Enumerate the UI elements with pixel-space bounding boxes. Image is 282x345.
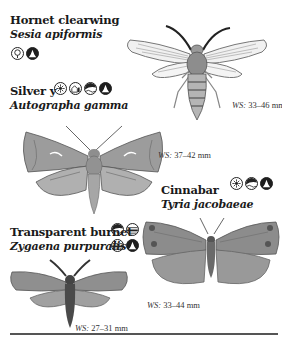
species-latin-name: Tyria jacobaeae xyxy=(161,198,253,211)
tree-habitat-icon xyxy=(11,47,24,60)
habitat-icons xyxy=(54,82,112,95)
habitat-icons xyxy=(111,239,139,252)
wingspan-label: WS: 33–44 mm xyxy=(147,300,200,310)
wetland-habitat-icon xyxy=(126,223,139,236)
species-common-name: Cinnabar xyxy=(161,184,219,197)
garden-habitat-icon xyxy=(69,82,82,95)
cinnabar-illustration xyxy=(140,212,282,298)
species-latin-name: Autographa gamma xyxy=(10,99,128,112)
seasonal-flight-icon xyxy=(99,82,112,95)
wingspan-label: WS: 27–31 mm xyxy=(75,323,128,333)
species-common-name: Hornet clearwing xyxy=(10,14,119,27)
wetland-habitat-icon xyxy=(111,239,124,252)
habitat-icons xyxy=(230,177,273,190)
wingspan-label: WS: 33–46 mm xyxy=(232,100,282,110)
silver-y-illustration xyxy=(10,120,160,215)
flower-habitat-icon xyxy=(230,177,243,190)
habitat-icons xyxy=(11,47,39,60)
wingspan-label: WS: 37–42 mm xyxy=(158,150,211,160)
seasonal-flight-icon xyxy=(260,177,273,190)
coastal-habitat-icon xyxy=(245,177,258,190)
coastal-habitat-icon xyxy=(111,223,124,236)
habitat-icons xyxy=(111,223,139,236)
flower-habitat-icon xyxy=(54,82,67,95)
seasonal-flight-icon xyxy=(126,239,139,252)
species-latin-name: Zygaena purpuralis xyxy=(10,240,126,253)
species-common-name: Silver y xyxy=(10,85,56,98)
transparent-burnet-illustration xyxy=(8,258,126,330)
coastal-habitat-icon xyxy=(84,82,97,95)
species-latin-name: Sesia apiformis xyxy=(10,28,102,41)
seasonal-flight-icon xyxy=(26,47,39,60)
bottom-rule xyxy=(10,333,278,335)
